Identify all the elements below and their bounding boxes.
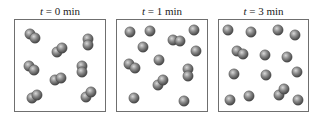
panel-title-t3: t = 3 min (218, 4, 309, 18)
container-box-t3 (218, 19, 309, 112)
container-box-t1 (116, 19, 208, 112)
panel-title-t1: t = 1 min (116, 4, 208, 18)
time-value: = 0 min (43, 5, 80, 17)
time-value: = 3 min (246, 5, 283, 17)
time-value: = 1 min (145, 5, 182, 17)
panel-title-t0: t = 0 min (14, 4, 106, 18)
container-box-t0 (14, 19, 106, 112)
